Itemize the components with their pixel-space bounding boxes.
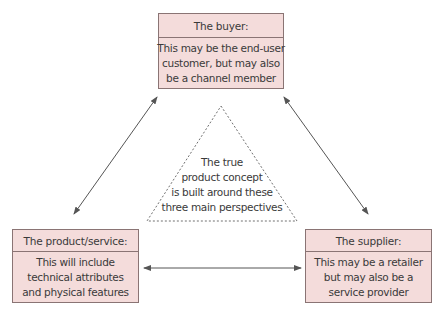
product-line: This will include xyxy=(36,255,114,270)
buyer-description: This may be the end-user customer, but m… xyxy=(159,38,283,88)
buyer-line: This may be the end-user xyxy=(157,41,284,56)
supplier-box: The supplier: This may be a retailer but… xyxy=(305,229,432,303)
center-line: is built around these xyxy=(147,185,297,200)
supplier-line: This may be a retailer xyxy=(314,255,422,270)
product-header: The product/service: xyxy=(13,230,138,252)
supplier-line: but may also be a xyxy=(324,270,413,285)
buyer-box: The buyer: This may be the end-user cust… xyxy=(158,13,284,89)
center-line: three main perspectives xyxy=(147,200,297,215)
product-line: and physical features xyxy=(22,285,129,300)
supplier-line: service provider xyxy=(329,285,409,300)
product-description: This will include technical attributes a… xyxy=(13,252,138,302)
product-line: technical attributes xyxy=(27,270,123,285)
buyer-line: be a channel member xyxy=(166,71,276,86)
product-box: The product/service: This will include t… xyxy=(12,229,139,303)
buyer-line: customer, but may also xyxy=(162,56,280,71)
center-concept-text: The true product concept is built around… xyxy=(147,155,297,215)
buyer-header: The buyer: xyxy=(159,14,283,38)
center-line: product concept xyxy=(147,170,297,185)
supplier-header: The supplier: xyxy=(306,230,431,252)
center-line: The true xyxy=(147,155,297,170)
arrow-product-buyer xyxy=(74,97,157,214)
supplier-description: This may be a retailer but may also be a… xyxy=(306,252,431,302)
